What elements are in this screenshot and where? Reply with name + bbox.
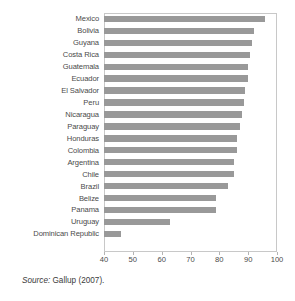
source-note-prefix: Source: xyxy=(22,276,50,285)
bar xyxy=(104,219,170,225)
bar xyxy=(104,123,240,129)
category-label: Uruguay xyxy=(0,217,99,226)
category-label: Panama xyxy=(0,205,99,214)
x-axis: 405060708090100 xyxy=(104,252,277,270)
bar-row: El Salvador xyxy=(0,85,277,97)
bar-row: Ecuador xyxy=(0,73,277,85)
bar-track xyxy=(104,180,277,192)
category-label: Colombia xyxy=(0,146,99,155)
bar xyxy=(104,159,234,165)
x-tick-label: 50 xyxy=(121,255,145,265)
bar xyxy=(104,52,250,58)
bar-row: Guatemala xyxy=(0,61,277,73)
bar-track xyxy=(104,120,277,132)
bar-track xyxy=(104,37,277,49)
category-label: Chile xyxy=(0,170,99,179)
category-label: Dominican Republic xyxy=(0,229,99,238)
bar xyxy=(104,171,234,177)
category-label: Brazil xyxy=(0,182,99,191)
x-tick-label: 70 xyxy=(179,255,203,265)
bar-rows: MexicoBoliviaGuyanaCosta RicaGuatemalaEc… xyxy=(0,13,277,252)
bar-track xyxy=(104,25,277,37)
figure-container: MexicoBoliviaGuyanaCosta RicaGuatemalaEc… xyxy=(0,0,295,301)
category-label: Belize xyxy=(0,194,99,203)
bar-row: Argentina xyxy=(0,156,277,168)
bar-track xyxy=(104,73,277,85)
bar-track xyxy=(104,156,277,168)
bar-row: Uruguay xyxy=(0,216,277,228)
bar-track xyxy=(104,192,277,204)
bar-row: Chile xyxy=(0,168,277,180)
bar xyxy=(104,183,228,189)
bar-row: Panama xyxy=(0,204,277,216)
bar-row: Paraguay xyxy=(0,120,277,132)
bar xyxy=(104,28,254,34)
category-label: El Salvador xyxy=(0,86,99,95)
bar-track xyxy=(104,85,277,97)
bar-row: Mexico xyxy=(0,13,277,25)
bar xyxy=(104,40,252,46)
bar xyxy=(104,16,265,22)
category-label: Costa Rica xyxy=(0,50,99,59)
category-label: Peru xyxy=(0,98,99,107)
source-note-text: Gallup (2007). xyxy=(50,276,104,285)
bar-row: Costa Rica xyxy=(0,49,277,61)
bar-row: Nicaragua xyxy=(0,109,277,121)
category-label: Guatemala xyxy=(0,62,99,71)
category-label: Mexico xyxy=(0,14,99,23)
bar-track xyxy=(104,97,277,109)
bar xyxy=(104,231,121,237)
bar-row: Belize xyxy=(0,192,277,204)
bar xyxy=(104,87,245,93)
bar-row: Brazil xyxy=(0,180,277,192)
x-tick-label: 40 xyxy=(92,255,116,265)
bar-row: Guyana xyxy=(0,37,277,49)
bar xyxy=(104,195,216,201)
bar xyxy=(104,64,248,70)
category-label: Honduras xyxy=(0,134,99,143)
source-note: Source: Gallup (2007). xyxy=(22,275,104,286)
bar-row: Colombia xyxy=(0,144,277,156)
category-label: Argentina xyxy=(0,158,99,167)
bar-track xyxy=(104,168,277,180)
bar xyxy=(104,207,216,213)
bar xyxy=(104,75,248,81)
bar-track xyxy=(104,61,277,73)
bar-row: Peru xyxy=(0,97,277,109)
x-tick-label: 100 xyxy=(265,255,289,265)
bar-row: Bolivia xyxy=(0,25,277,37)
bar xyxy=(104,111,242,117)
bar-track xyxy=(104,132,277,144)
bar-row: Dominican Republic xyxy=(0,228,277,240)
category-label: Paraguay xyxy=(0,122,99,131)
bar-track xyxy=(104,49,277,61)
bar xyxy=(104,147,237,153)
x-tick-label: 80 xyxy=(207,255,231,265)
bar xyxy=(104,135,237,141)
bar-track xyxy=(104,216,277,228)
bar xyxy=(104,99,244,105)
bar-row: Honduras xyxy=(0,132,277,144)
category-label: Bolivia xyxy=(0,26,99,35)
bar-track xyxy=(104,144,277,156)
x-tick-label: 90 xyxy=(236,255,260,265)
bar-track xyxy=(104,13,277,25)
category-label: Ecuador xyxy=(0,74,99,83)
bar-track xyxy=(104,109,277,121)
category-label: Nicaragua xyxy=(0,110,99,119)
bar-chart: MexicoBoliviaGuyanaCosta RicaGuatemalaEc… xyxy=(0,0,295,266)
category-label: Guyana xyxy=(0,38,99,47)
x-tick-label: 60 xyxy=(150,255,174,265)
bar-track xyxy=(104,228,277,240)
bar-track xyxy=(104,204,277,216)
